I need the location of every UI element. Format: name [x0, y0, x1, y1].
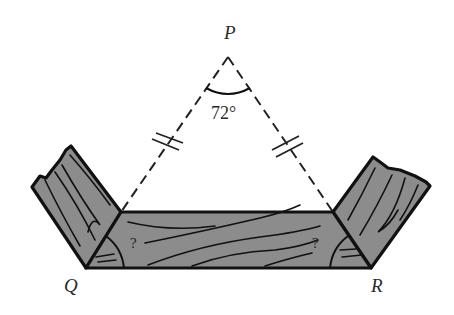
equal-tick-marks-left [152, 133, 183, 150]
equal-tick-marks-right [272, 136, 303, 157]
label-apex-angle: 72° [211, 103, 236, 123]
apex-angle-arc [206, 88, 250, 94]
bottom-plank [86, 205, 371, 268]
label-r: R [370, 275, 383, 296]
side-pr [228, 57, 333, 212]
label-right-unknown-angle: ? [312, 235, 319, 251]
triangle-wood-diagram: P 72° ? ? Q R [0, 0, 454, 315]
label-left-unknown-angle: ? [130, 235, 137, 251]
side-pq [121, 57, 228, 212]
label-q: Q [64, 275, 78, 296]
label-p: P [223, 22, 236, 43]
